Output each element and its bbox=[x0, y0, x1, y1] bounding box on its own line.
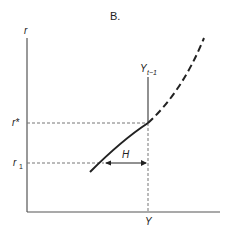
y-axis-label: r bbox=[24, 25, 28, 36]
r-star-label: r* bbox=[12, 117, 20, 128]
dashed-curve bbox=[148, 38, 204, 123]
figure-title: B. bbox=[110, 10, 120, 22]
r1-subscript: 1 bbox=[19, 163, 23, 170]
h-label: H bbox=[122, 149, 130, 160]
x-axis-label: Y bbox=[145, 216, 153, 227]
y-t-minus-1-subscript: t−1 bbox=[147, 69, 157, 76]
h-arrow-left-head-icon bbox=[105, 161, 111, 166]
diagram-canvas: B. r Y r* r 1 Y t−1 H bbox=[0, 0, 231, 230]
r1-label: r bbox=[13, 157, 17, 168]
solid-curve bbox=[90, 123, 148, 172]
diagram-figure: B. r Y r* r 1 Y t−1 H bbox=[0, 0, 231, 230]
